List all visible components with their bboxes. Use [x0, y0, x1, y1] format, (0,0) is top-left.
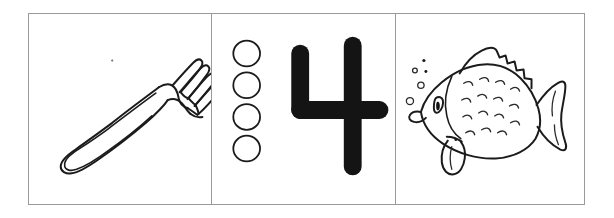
fish-scale: [461, 98, 470, 102]
fish-icon: [396, 14, 584, 204]
fish-scale: [493, 97, 502, 101]
fork-neck-lower: [168, 99, 191, 114]
fork-illustration-panel[interactable]: [29, 14, 212, 204]
fork-handle-inner: [64, 93, 155, 170]
fish-tail-fin: [536, 82, 566, 151]
fish-scale: [465, 131, 474, 135]
fish-scale: [510, 121, 519, 125]
fish-scale: [462, 115, 471, 119]
fork-head-web-1: [181, 92, 189, 98]
flashcard-sheet: [0, 0, 614, 218]
fork-head-web-2: [189, 98, 196, 105]
fish-mouth: [409, 112, 426, 123]
fish-scale: [463, 82, 472, 86]
fish-scale: [479, 78, 488, 82]
numeral-four-right-stroke: [344, 37, 362, 176]
fish-scale: [495, 81, 504, 85]
counting-circle-1: [234, 41, 261, 67]
bubble-3: [424, 70, 427, 73]
numeral-four-glyph: [292, 37, 389, 176]
counting-circle-2: [234, 72, 261, 98]
fish-tail-ray-2: [554, 125, 558, 145]
fish-scale: [481, 128, 490, 132]
fish-pelvic-fin: [441, 141, 464, 175]
fish-scale: [509, 104, 518, 108]
counting-circle-3: [234, 104, 261, 130]
bubble-4: [417, 82, 423, 88]
fish-fin-dot: [454, 138, 457, 141]
fish-scale: [478, 111, 487, 115]
fish-scale-pattern: [461, 78, 519, 135]
bubble-1: [422, 59, 425, 62]
bubble-2: [412, 68, 417, 73]
fish-scale: [477, 94, 486, 98]
counting-circle-4: [234, 136, 261, 162]
fork-icon: [29, 14, 211, 204]
flashcard-frame: [28, 13, 585, 205]
bubble-5: [406, 98, 413, 105]
fish-pupil: [436, 102, 440, 110]
fork-handle-outer: [61, 87, 168, 173]
fish-scale: [497, 131, 506, 135]
fish-scale: [510, 87, 519, 91]
fish-pelvic-fin-ray: [450, 147, 451, 170]
circle-tally-icon: [212, 14, 394, 204]
fish-tail-ray-1: [552, 91, 555, 116]
numeral-four-cross-stroke: [292, 101, 389, 119]
fish-gill-line: [445, 76, 460, 138]
fish-scale: [494, 114, 503, 118]
fish-illustration-panel[interactable]: [396, 14, 584, 204]
counting-panel[interactable]: [212, 14, 395, 204]
stray-speck: [111, 59, 113, 61]
